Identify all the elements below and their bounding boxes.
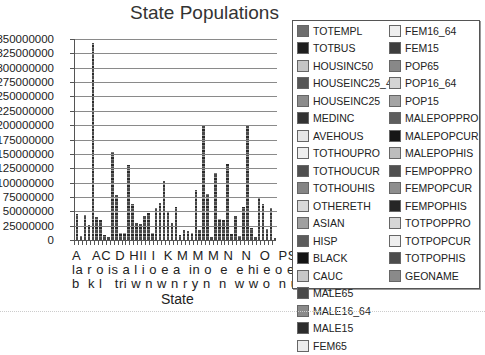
legend-item-malepophis[interactable]: MALEPOPHIS bbox=[389, 145, 479, 163]
bar-az[interactable] bbox=[84, 215, 87, 240]
legend-item-houseinc25_49[interactable]: HOUSEINC25_49 bbox=[297, 75, 398, 93]
legend-swatch-icon bbox=[297, 252, 309, 264]
bar-or[interactable] bbox=[222, 220, 225, 240]
legend-label: CAUC bbox=[313, 270, 343, 282]
legend-swatch-icon bbox=[297, 42, 309, 54]
legend-item-male15[interactable]: MALE15 bbox=[297, 320, 398, 338]
legend-item-geoname[interactable]: GEONAME bbox=[389, 267, 479, 285]
legend-swatch-icon bbox=[297, 270, 309, 282]
legend-swatch-icon bbox=[389, 112, 401, 124]
bar-sc[interactable] bbox=[234, 216, 237, 240]
bar-ky[interactable] bbox=[143, 216, 146, 240]
legend-item-asian[interactable]: ASIAN bbox=[297, 215, 398, 233]
legend-swatch-icon bbox=[297, 200, 309, 212]
bar-me[interactable] bbox=[151, 233, 154, 240]
legend-item-fempoppro[interactable]: FEMPOPPRO bbox=[389, 162, 479, 180]
legend-label: TOTPOPCUR bbox=[405, 235, 471, 247]
legend-swatch-icon bbox=[389, 217, 401, 229]
legend-label: FEMPOPHIS bbox=[405, 200, 467, 212]
legend-item-tothoupro[interactable]: TOTHOUPRO bbox=[297, 145, 398, 163]
legend-item-othereth[interactable]: OTHERETH bbox=[297, 197, 398, 215]
legend-item-fem65[interactable]: FEM65 bbox=[297, 337, 398, 355]
legend-item-tothouhis[interactable]: TOTHOUHIS bbox=[297, 180, 398, 198]
bar-nh[interactable] bbox=[191, 233, 194, 240]
y-tick-mark bbox=[70, 111, 75, 112]
bar-id[interactable] bbox=[123, 233, 126, 240]
legend-item-totpophis[interactable]: TOTPOPHIS bbox=[389, 250, 479, 268]
bar-nv[interactable] bbox=[187, 231, 190, 240]
legend-label: HOUSEINC25 bbox=[313, 95, 380, 107]
legend-item-avehous[interactable]: AVEHOUS bbox=[297, 127, 398, 145]
legend-label: TOTHOUCUR bbox=[313, 165, 380, 177]
legend-label: TOTEMPL bbox=[313, 25, 362, 37]
legend-label: AVEHOUS bbox=[313, 130, 364, 142]
legend-label: FEM65 bbox=[313, 340, 347, 352]
legend-column: FEM16_64FEM15POP65POP16_64POP15MALEPOPPR… bbox=[389, 22, 479, 285]
legend-item-fempophis[interactable]: FEMPOPHIS bbox=[389, 197, 479, 215]
bar-ct[interactable] bbox=[99, 220, 102, 240]
legend-swatch-icon bbox=[297, 130, 309, 142]
bar-ga[interactable] bbox=[115, 195, 118, 240]
legend-label: HOUSEINC25_49 bbox=[313, 77, 398, 89]
legend-item-fempopcur[interactable]: FEMPOPCUR bbox=[389, 180, 479, 198]
legend-swatch-icon bbox=[389, 77, 401, 89]
bar-pa[interactable] bbox=[226, 164, 229, 240]
legend-swatch-icon bbox=[389, 270, 401, 282]
bar-wi[interactable] bbox=[270, 208, 273, 240]
gridline bbox=[75, 68, 277, 69]
legend-label: MALEPOPCUR bbox=[405, 130, 479, 142]
divider bbox=[0, 311, 485, 312]
legend-item-pop65[interactable]: POP65 bbox=[389, 57, 479, 75]
bar-al[interactable] bbox=[76, 214, 79, 240]
legend-item-totbus[interactable]: TOTBUS bbox=[297, 40, 398, 58]
bar-ma[interactable] bbox=[159, 203, 162, 240]
gridline bbox=[75, 125, 277, 126]
bar-hi[interactable] bbox=[119, 233, 122, 240]
y-tick-label: 350000000 bbox=[0, 33, 54, 45]
legend-item-malepopcur[interactable]: MALEPOPCUR bbox=[389, 127, 479, 145]
legend-item-fem15[interactable]: FEM15 bbox=[389, 40, 479, 58]
legend-item-tothoucur[interactable]: TOTHOUCUR bbox=[297, 162, 398, 180]
legend-label: BLACK bbox=[313, 252, 347, 264]
bar-co[interactable] bbox=[95, 217, 98, 240]
legend-item-malepoppro[interactable]: MALEPOPPRO bbox=[389, 110, 479, 128]
bar-in[interactable] bbox=[131, 204, 134, 240]
legend-item-totpopcur[interactable]: TOTPOPCUR bbox=[389, 232, 479, 250]
legend-item-male65[interactable]: MALE65 bbox=[297, 285, 398, 303]
legend-item-pop15[interactable]: POP15 bbox=[389, 92, 479, 110]
gridline bbox=[75, 154, 277, 155]
bar-il[interactable] bbox=[127, 165, 130, 240]
legend-swatch-icon bbox=[389, 147, 401, 159]
legend-swatch-icon bbox=[297, 77, 309, 89]
legend-item-cauc[interactable]: CAUC bbox=[297, 267, 398, 285]
bar-ne[interactable] bbox=[183, 230, 186, 240]
bar-ok[interactable] bbox=[218, 219, 221, 240]
bar-wa[interactable] bbox=[262, 204, 265, 240]
bar-nc[interactable] bbox=[206, 194, 209, 240]
legend-item-pop16_64[interactable]: POP16_64 bbox=[389, 75, 479, 93]
y-tick-mark bbox=[70, 125, 75, 126]
gridline bbox=[75, 111, 277, 112]
legend-label: FEMPOPPRO bbox=[405, 165, 472, 177]
legend-item-hisp[interactable]: HISP bbox=[297, 232, 398, 250]
bar-ar[interactable] bbox=[88, 225, 91, 241]
y-tick-label: 25000000 bbox=[0, 220, 54, 232]
legend-swatch-icon bbox=[297, 165, 309, 177]
gridline bbox=[75, 96, 277, 97]
bar-ut[interactable] bbox=[250, 228, 253, 240]
legend-label: OTHERETH bbox=[313, 200, 371, 212]
y-tick-label: 200000000 bbox=[0, 119, 54, 131]
legend-item-totpoppro[interactable]: TOTPOPPRO bbox=[389, 215, 479, 233]
bar-va[interactable] bbox=[258, 198, 261, 240]
legend-swatch-icon bbox=[389, 60, 401, 72]
legend-item-houseinc25[interactable]: HOUSEINC25 bbox=[297, 92, 398, 110]
legend-item-fem16_64[interactable]: FEM16_64 bbox=[389, 22, 479, 40]
bar-md[interactable] bbox=[155, 208, 158, 240]
y-tick-mark bbox=[70, 53, 75, 54]
legend-item-totempl[interactable]: TOTEMPL bbox=[297, 22, 398, 40]
bar-wv[interactable] bbox=[266, 229, 269, 240]
legend-item-black[interactable]: BLACK bbox=[297, 250, 398, 268]
bar-nm[interactable] bbox=[198, 230, 201, 240]
legend-item-housinc50[interactable]: HOUSINC50 bbox=[297, 57, 398, 75]
legend-item-medinc[interactable]: MEDINC bbox=[297, 110, 398, 128]
